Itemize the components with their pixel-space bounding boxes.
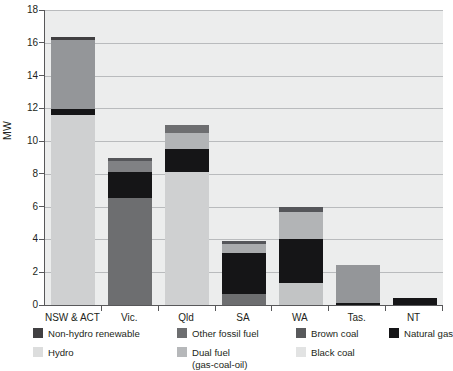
y-axis-tick: 0: [32, 299, 44, 311]
legend-item-label: Non-hydro renewable: [48, 327, 140, 340]
bar-segment[interactable]: [279, 283, 323, 305]
legend-color-swatch: [177, 328, 187, 338]
y-axis-tick: 6: [32, 201, 44, 213]
bar-stack[interactable]: [279, 207, 323, 305]
x-axis-tick-mark: [215, 306, 216, 311]
bar-segment[interactable]: [279, 212, 323, 239]
x-axis-tick-mark: [442, 306, 443, 311]
bar-stack[interactable]: [222, 241, 266, 305]
x-axis-tick-label: NSW & ACT: [44, 312, 101, 324]
legend-color-swatch: [177, 347, 187, 357]
bar-segment[interactable]: [165, 172, 209, 305]
bar-segment[interactable]: [279, 207, 323, 213]
bar-segment[interactable]: [222, 253, 266, 295]
bars-layer: [45, 10, 443, 305]
y-axis-tick: 18: [27, 4, 44, 16]
legend-item-label: Black coal: [311, 346, 355, 359]
legend-color-swatch: [389, 328, 399, 338]
bar-stack[interactable]: [336, 265, 380, 305]
bar-segment[interactable]: [222, 244, 266, 253]
y-axis: 024681012141618: [0, 0, 44, 306]
y-axis-tick: 14: [27, 70, 44, 82]
legend-item-label: Dual fuel(gas-coal-oil): [192, 346, 247, 371]
y-axis-tick: 10: [27, 135, 44, 147]
x-axis-tick-mark: [271, 306, 272, 311]
bar-segment[interactable]: [336, 303, 380, 305]
legend-item-label: Natural gas: [404, 327, 453, 340]
bar-segment[interactable]: [108, 198, 152, 305]
bar-segment[interactable]: [165, 125, 209, 133]
y-axis-tick: 4: [32, 233, 44, 245]
bar-segment[interactable]: [336, 265, 380, 303]
bar-segment[interactable]: [165, 149, 209, 172]
legend-item-label: Hydro: [48, 346, 74, 359]
bar-segment[interactable]: [222, 241, 266, 244]
legend-item-sublabel: (gas-coal-oil): [192, 359, 247, 371]
plot-area: [44, 10, 443, 306]
y-axis-tick: 8: [32, 168, 44, 180]
bar-segment[interactable]: [108, 158, 152, 161]
bar-stack[interactable]: [165, 125, 209, 305]
x-axis-tick-label: WA: [271, 312, 328, 324]
y-axis-tick: 12: [27, 102, 44, 114]
bar-segment[interactable]: [165, 133, 209, 149]
bar-segment[interactable]: [393, 298, 437, 305]
legend-item-label: Other fossil fuel: [192, 327, 259, 340]
x-axis-tick-label: SA: [215, 312, 272, 324]
x-axis-tick-mark: [158, 306, 159, 311]
bar-segment[interactable]: [222, 294, 266, 305]
bar-segment[interactable]: [108, 172, 152, 198]
legend-color-swatch: [33, 328, 43, 338]
x-axis-tick-label: NT: [385, 312, 442, 324]
bar-stack[interactable]: [108, 158, 152, 306]
x-axis-tick-mark: [385, 306, 386, 311]
bar-stack[interactable]: [51, 37, 95, 305]
y-axis-tick: 2: [32, 266, 44, 278]
x-axis: NSW & ACTVic.QldSAWATas.NT: [44, 306, 443, 324]
x-axis-tick-label: Tas.: [328, 312, 385, 324]
bar-segment[interactable]: [51, 115, 95, 305]
bar-segment[interactable]: [279, 239, 323, 282]
bar-stack[interactable]: [393, 298, 437, 305]
x-axis-tick-mark: [101, 306, 102, 311]
bar-segment[interactable]: [108, 161, 152, 172]
x-axis-tick-label: Qld: [158, 312, 215, 324]
x-axis-tick-mark: [328, 306, 329, 311]
legend-color-swatch: [33, 347, 43, 357]
chart-legend: Non-hydro renewableOther fossil fuelBrow…: [33, 327, 443, 369]
legend-color-swatch: [296, 347, 306, 357]
y-axis-tick: 16: [27, 37, 44, 49]
x-axis-tick-label: Vic.: [101, 312, 158, 324]
bar-segment[interactable]: [51, 109, 95, 115]
bar-segment[interactable]: [51, 37, 95, 39]
legend-item-label: Brown coal: [311, 327, 358, 340]
legend-color-swatch: [296, 328, 306, 338]
bar-segment[interactable]: [51, 40, 95, 110]
